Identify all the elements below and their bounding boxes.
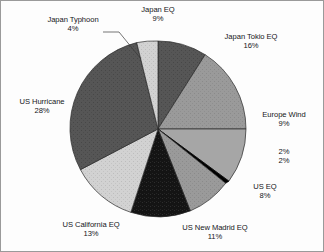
- label-exteme-weather: 2% 2%: [245, 147, 323, 166]
- label-us-eq-name: US EQ: [241, 182, 289, 191]
- pie-chart-screenshot: Japan Typhoon 4% Japan EQ 9% Japan Tokio…: [0, 0, 324, 252]
- label-us-new-madrid-eq-name: US New Madrid EQ: [167, 223, 263, 232]
- label-japan-tokio-eq: Japan Tokio EQ 16%: [210, 32, 292, 51]
- label-japan-tokio-eq-percent: 16%: [210, 41, 292, 50]
- label-japan-eq: Japan EQ 9%: [127, 5, 189, 24]
- label-us-california-eq-name: US California EQ: [46, 220, 136, 229]
- label-europe-wind-name: Europe Wind: [251, 110, 317, 119]
- label-europe-wind: Europe Wind 9%: [251, 110, 317, 129]
- label-japan-tokio-eq-name: Japan Tokio EQ: [210, 32, 292, 41]
- label-europe-wind-percent: 9%: [251, 119, 317, 128]
- label-exteme-weather-name: 2%: [245, 147, 323, 156]
- label-us-california-eq-percent: 13%: [46, 229, 136, 238]
- pie-slices: [70, 41, 246, 217]
- label-japan-typhoon: Japan Typhoon 4%: [33, 15, 113, 34]
- label-us-new-madrid-eq-percent: 11%: [167, 232, 263, 241]
- label-japan-eq-percent: 9%: [127, 14, 189, 23]
- label-us-california-eq: US California EQ 13%: [46, 220, 136, 239]
- label-japan-typhoon-name: Japan Typhoon: [33, 15, 113, 24]
- label-japan-typhoon-percent: 4%: [33, 24, 113, 33]
- label-japan-eq-name: Japan EQ: [127, 5, 189, 14]
- label-us-hurricane: US Hurricane 28%: [9, 97, 75, 116]
- label-exteme-weather-percent: 2%: [245, 156, 323, 165]
- label-us-new-madrid-eq: US New Madrid EQ 11%: [167, 223, 263, 242]
- chart-area: Japan Typhoon 4% Japan EQ 9% Japan Tokio…: [1, 1, 323, 251]
- label-us-hurricane-percent: 28%: [9, 106, 75, 115]
- label-us-hurricane-name: US Hurricane: [9, 97, 75, 106]
- label-us-eq: US EQ 8%: [241, 182, 289, 201]
- label-us-eq-percent: 8%: [241, 191, 289, 200]
